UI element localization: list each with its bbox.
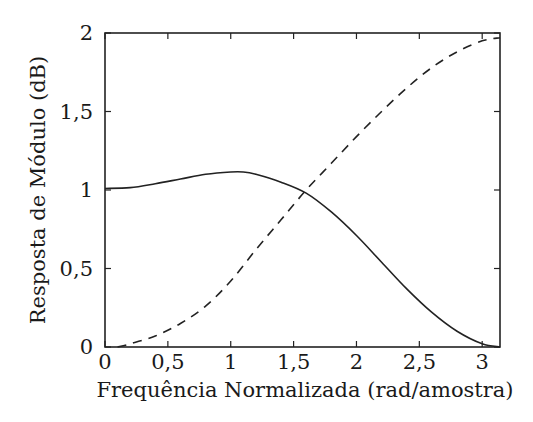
- y-tick-label: 1: [80, 178, 93, 202]
- x-axis-label: Frequência Normalizada (rad/amostra): [96, 378, 513, 402]
- series-line-solid: [105, 172, 500, 347]
- x-tick-label: 0,5: [151, 350, 184, 374]
- x-tick-label: 1,5: [277, 350, 310, 374]
- x-tick-label: 2: [350, 350, 363, 374]
- series-line-dashed: [118, 38, 500, 347]
- x-tick-label: 0: [98, 350, 111, 374]
- x-tick-label: 2,5: [403, 350, 436, 374]
- y-tick-label: 0,5: [60, 257, 93, 281]
- y-tick-label: 0: [80, 335, 93, 359]
- y-tick-label: 1,5: [60, 100, 93, 124]
- y-tick-label: 2: [80, 21, 93, 45]
- magnitude-response-chart: 00,511,522,5300,511,52 Frequência Normal…: [0, 0, 533, 422]
- axis-ticks: [105, 33, 500, 347]
- plot-area: [105, 33, 500, 347]
- x-tick-label: 1: [224, 350, 237, 374]
- plot-frame: [105, 33, 500, 347]
- x-tick-label: 3: [476, 350, 489, 374]
- y-axis-label: Resposta de Módulo (dB): [26, 56, 50, 324]
